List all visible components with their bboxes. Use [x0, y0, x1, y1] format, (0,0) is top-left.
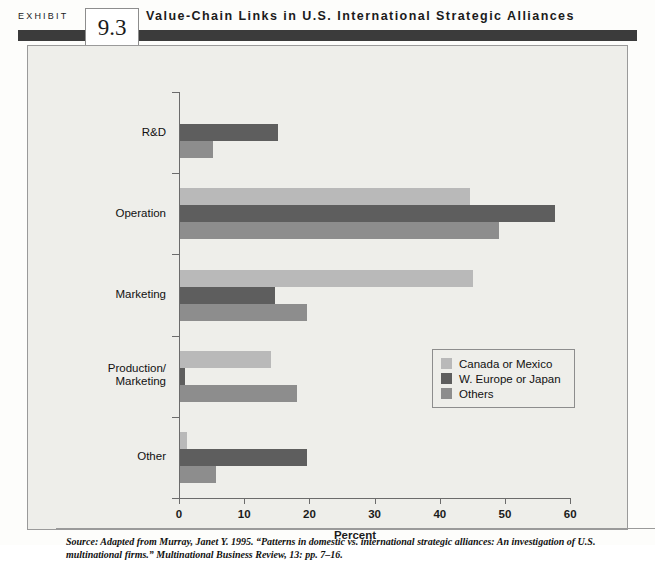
legend-label: Canada or Mexico — [459, 358, 552, 370]
legend-label: W. Europe or Japan — [459, 373, 561, 385]
exhibit-number: 9.3 — [98, 16, 127, 41]
exhibit-label: EXHIBIT — [18, 11, 68, 21]
y-axis-tick — [172, 417, 179, 418]
legend-item: Canada or Mexico — [441, 356, 561, 371]
legend-swatch-w-europe-or-japan — [441, 373, 452, 384]
bar-1 — [180, 205, 555, 222]
chart-legend: Canada or Mexico W. Europe or Japan Othe… — [432, 349, 575, 408]
exhibit-number-box: 9.3 — [85, 8, 139, 48]
y-axis-tick — [172, 92, 179, 93]
bar-0 — [180, 188, 470, 205]
x-axis-tick-label: 60 — [564, 508, 577, 520]
source-divider — [56, 528, 655, 529]
legend-item: W. Europe or Japan — [441, 371, 561, 386]
source-note: Source: Adapted from Murray, Janet Y. 19… — [66, 535, 646, 561]
bar-chart-plot: Percent 0102030405060R&DOperationMarketi… — [179, 92, 635, 498]
x-axis-tick-label: 20 — [303, 508, 316, 520]
bar-2 — [180, 304, 307, 321]
x-axis-tick — [440, 498, 441, 504]
bar-0 — [180, 270, 473, 287]
x-axis-tick-label: 30 — [368, 508, 381, 520]
y-axis-category-label: R&D — [142, 126, 166, 139]
y-axis-category-label: Other — [137, 450, 166, 463]
legend-swatch-canada-or-mexico — [441, 358, 452, 369]
x-axis-tick — [309, 498, 310, 504]
bar-0 — [180, 351, 271, 368]
x-axis-tick-label: 50 — [499, 508, 512, 520]
x-axis-tick-label: 10 — [238, 508, 251, 520]
y-axis-category-label: Production/Marketing — [108, 362, 166, 388]
legend-swatch-others — [441, 388, 452, 399]
bar-2 — [180, 466, 216, 483]
legend-item: Others — [441, 386, 561, 401]
page-title: Value-Chain Links in U.S. International … — [146, 9, 575, 23]
x-axis-tick — [570, 498, 571, 504]
bar-1 — [180, 287, 275, 304]
bar-2 — [180, 222, 499, 239]
bar-1 — [180, 124, 278, 141]
y-axis-tick — [172, 498, 179, 499]
x-axis-tick — [375, 498, 376, 504]
chart-frame: Percent 0102030405060R&DOperationMarketi… — [27, 45, 628, 530]
legend-label: Others — [459, 388, 494, 400]
x-axis-tick — [179, 498, 180, 504]
x-axis-tick-label: 40 — [433, 508, 446, 520]
bar-0 — [180, 432, 187, 449]
source-line-2: firms.” Multinational Business Review, 1… — [125, 549, 343, 560]
x-axis-tick — [505, 498, 506, 504]
y-axis-tick — [172, 254, 179, 255]
bar-2 — [180, 141, 213, 158]
y-axis-tick — [172, 336, 179, 337]
bar-1 — [180, 368, 185, 385]
x-axis-tick — [244, 498, 245, 504]
bar-2 — [180, 385, 297, 402]
bar-1 — [180, 449, 307, 466]
y-axis-category-label: Operation — [115, 207, 166, 220]
y-axis-tick — [172, 173, 179, 174]
x-axis-tick-label: 0 — [176, 508, 182, 520]
y-axis-category-label: Marketing — [116, 288, 167, 301]
